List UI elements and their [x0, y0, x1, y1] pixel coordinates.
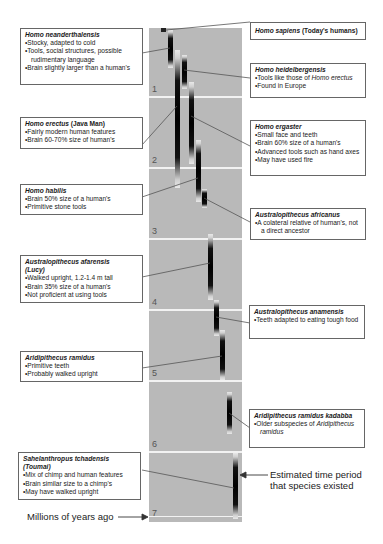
box-sahelanthropus: Sahelanthropus tchadensis (Toumai) Mix o… — [18, 452, 141, 500]
species-name: Homo heidelbergensis — [255, 66, 361, 74]
axis-label: Millions of years ago — [27, 511, 114, 522]
species-name: Homo ergaster — [255, 123, 361, 131]
species-name: Aridipithecus ramidus — [25, 354, 138, 362]
bullet: Tools like those of Homo erectus — [255, 74, 361, 82]
bullet: Mix of chimp and human features — [23, 471, 136, 479]
bullet: Walked upright, 1.2-1.4 m tall — [25, 274, 138, 282]
species-alias: (Java Man) — [71, 120, 105, 127]
species-name: Homo habilis — [25, 187, 138, 195]
box-habilis: Homo habilis Brain 50% size of a human's… — [20, 184, 143, 215]
bullet: Brain 35% size of a human's — [25, 283, 138, 291]
bullet: Found in Europe — [255, 82, 361, 90]
bullet: Brain 60% size of a human's — [255, 139, 361, 147]
box-heidelbergensis: Homo heidelbergensis Tools like those of… — [250, 63, 366, 98]
box-anamensis: Australopithecus anamensis Teeth adapted… — [249, 305, 365, 339]
bullet: May have walked upright — [23, 488, 136, 496]
species-name: Australopithecus africanus — [255, 211, 361, 219]
species-name: Homo sapiens — [255, 27, 300, 34]
box-ramidus: Aridipithecus ramidus Primitive teeth Pr… — [20, 351, 143, 382]
species-alias: (Today's humans) — [302, 27, 358, 34]
species-name: Aridipithecus ramidus kadabba — [254, 412, 360, 420]
bullet: Brain similar size to a chimp's — [23, 480, 136, 488]
bullet: Stocky, adapted to cold — [25, 39, 138, 47]
species-name: Sahelanthropus tchadensis — [23, 455, 136, 463]
bullet: Small face and teeth — [255, 131, 361, 139]
bullet: Brain slightly larger than a human's — [25, 64, 138, 72]
bullet: Advanced tools such as hand axes — [255, 148, 361, 156]
bullet: May have used fire — [255, 156, 361, 164]
box-afarensis: Australopithecus afarensis (Lucy) Walked… — [20, 255, 143, 303]
species-name: Australopithecus afarensis — [25, 258, 138, 266]
bullet: Primitive teeth — [25, 362, 138, 370]
species-name: Homo neanderthalensis — [25, 31, 138, 39]
bullet: Brain 60-70% size of human's — [25, 136, 138, 144]
box-ergaster: Homo ergaster Small face and teeth Brain… — [250, 120, 366, 176]
bullet: A colateral relative of human's, not a d… — [255, 219, 361, 235]
bullet: Fairly modern human features — [25, 128, 138, 136]
box-neanderthalensis: Homo neanderthalensis Stocky, adapted to… — [20, 28, 143, 85]
box-sapiens: Homo sapiens (Today's humans) — [250, 22, 366, 40]
species-alias: (Lucy) — [25, 266, 138, 274]
box-africanus: Australopithecus africanus A colateral r… — [250, 208, 366, 240]
bullet: Tools, social structures, possible rudim… — [25, 47, 138, 63]
bullet: Primitive stone tools — [25, 203, 138, 211]
species-alias: (Toumai) — [23, 463, 136, 471]
bullet: Teeth adapted to eating tough food — [254, 316, 360, 324]
box-kadabba: Aridipithecus ramidus kadabba Older subs… — [249, 409, 365, 448]
species-name: Australopithecus anamensis — [254, 308, 360, 316]
box-erectus: Homo erectus (Java Man) Fairly modern hu… — [20, 117, 143, 149]
legend-note: Estimated time period that species exist… — [270, 469, 380, 491]
bullet: Probably walked upright — [25, 370, 138, 378]
species-name: Homo erectus — [25, 120, 69, 127]
bullet: Older subspecies of Aridipithecus ramidu… — [254, 420, 360, 436]
bullet: Not proficient at using tools — [25, 291, 138, 299]
bullet: Brain 50% size of a human's — [25, 195, 138, 203]
